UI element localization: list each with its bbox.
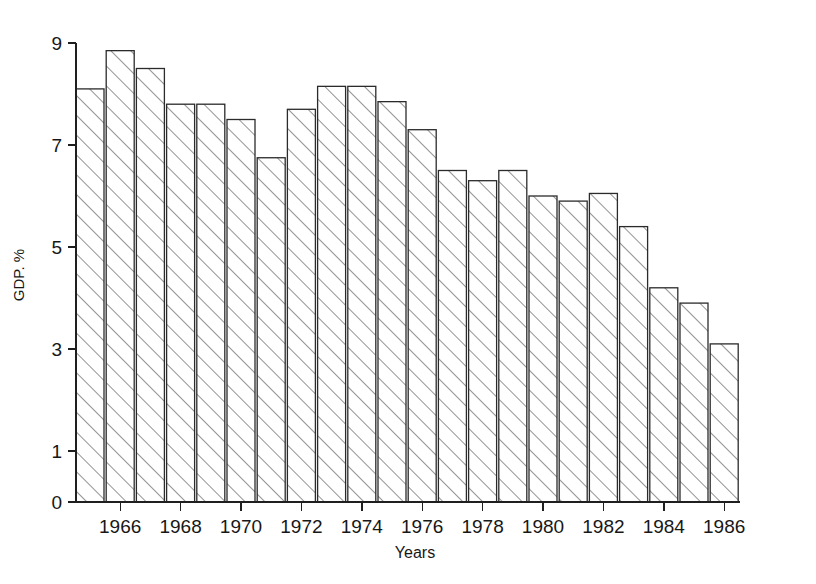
y-tick-label: 1 (51, 441, 62, 462)
x-tick-label: 1968 (159, 516, 201, 537)
bar-hatch (589, 193, 617, 502)
bar-hatch (499, 171, 527, 503)
y-tick-label: 3 (51, 339, 62, 360)
x-tick-label: 1982 (582, 516, 624, 537)
y-tick-label: 9 (51, 33, 62, 54)
bar-hatch (348, 86, 376, 502)
x-axis: 1966196819701972197419761978198019821984… (76, 502, 745, 537)
bar-hatch (167, 104, 195, 502)
bar-hatch (287, 109, 315, 502)
gdp-bar-chart: 013579 196619681970197219741976197819801… (0, 0, 816, 584)
y-tick-label: 7 (51, 135, 62, 156)
x-tick-label: 1986 (703, 516, 745, 537)
x-tick-label: 1974 (341, 516, 384, 537)
y-axis-title: GDP. % (10, 249, 27, 301)
bar-hatch (76, 89, 104, 502)
x-tick-label: 1972 (280, 516, 322, 537)
bar-hatch (620, 227, 648, 502)
bar-hatch (559, 201, 587, 502)
x-tick-label: 1978 (461, 516, 503, 537)
bar-hatch (438, 171, 466, 503)
x-tick-label: 1970 (220, 516, 262, 537)
bar-hatch (650, 288, 678, 502)
x-axis-title: Years (395, 544, 435, 561)
x-tick-label: 1966 (99, 516, 141, 537)
bar-hatch (197, 104, 225, 502)
bar-hatch (318, 86, 346, 502)
bar-hatch (469, 181, 497, 502)
bar-hatch (408, 130, 436, 502)
x-tick-label: 1980 (522, 516, 564, 537)
x-tick-label: 1976 (401, 516, 443, 537)
y-tick-label: 0 (51, 492, 62, 513)
bar-hatch (106, 51, 134, 502)
x-tick-label: 1984 (643, 516, 686, 537)
bar-hatch (710, 344, 738, 502)
y-axis: 013579 (51, 33, 76, 513)
bar-hatch (227, 120, 255, 503)
chart-canvas: 013579 196619681970197219741976197819801… (0, 0, 816, 584)
bar-hatch (378, 102, 406, 502)
bars-group (76, 51, 738, 502)
bar-hatch (136, 69, 164, 503)
y-tick-label: 5 (51, 237, 62, 258)
bar-hatch (257, 158, 285, 502)
bar-hatch (680, 303, 708, 502)
bar-hatch (529, 196, 557, 502)
